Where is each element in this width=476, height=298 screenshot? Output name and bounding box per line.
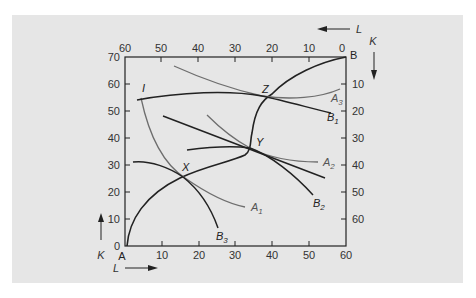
curve-b2-label: B2 [313,197,325,212]
curve-a1-label: A1 [250,201,263,216]
isoquant-b3 [133,162,218,228]
point-i-label: I [142,82,145,94]
svg-text:50: 50 [155,42,167,54]
curve-a3-label: A3 [330,92,343,107]
svg-text:40: 40 [108,132,120,144]
left-tick-labels: 0 10 20 30 40 50 60 70 [108,51,120,252]
l-right-arrow-icon [125,265,158,271]
isoquant-a1 [141,98,245,207]
top-tick-labels: 60 50 40 30 20 10 0 [119,42,345,54]
svg-text:30: 30 [108,159,120,171]
svg-text:40: 40 [352,159,364,171]
top-ticks [161,57,309,62]
origin-a-label: A [118,250,126,262]
l-axis-label-a: L [113,262,119,274]
l-axis-label-b: L [356,23,362,35]
svg-text:10: 10 [108,213,120,225]
svg-text:20: 20 [193,249,205,261]
curve-a2-label: A2 [322,156,335,171]
k-axis-label-a: K [97,249,105,261]
right-tick-labels: 10 20 30 40 50 60 [352,78,364,225]
svg-text:50: 50 [352,186,364,198]
svg-text:40: 40 [192,42,204,54]
svg-text:60: 60 [119,42,131,54]
svg-text:40: 40 [266,249,278,261]
edgeworth-box-diagram: 10 20 30 40 50 60 0 10 20 30 40 50 60 70… [0,0,476,298]
k-up-arrow-icon [98,213,104,240]
bottom-ticks [162,241,309,246]
point-x-label: X [181,161,190,173]
svg-text:10: 10 [156,249,168,261]
isoquant-b1 [137,93,331,113]
k-axis-label-b: K [369,35,377,47]
svg-text:20: 20 [352,105,364,117]
point-y-label: Y [256,136,264,148]
point-z-label: Z [261,83,270,95]
svg-text:20: 20 [108,186,120,198]
svg-text:30: 30 [352,132,364,144]
svg-text:60: 60 [340,249,352,261]
curve-b1-label: B1 [327,111,339,126]
svg-text:50: 50 [303,249,315,261]
origin-b-label: B [350,49,357,61]
curve-b3-label: B3 [216,230,228,245]
svg-text:0: 0 [339,42,345,54]
l-left-arrow-icon [317,26,350,32]
svg-text:60: 60 [352,213,364,225]
isoquant-b2 [187,147,313,195]
box-frame [125,57,346,246]
svg-text:50: 50 [108,105,120,117]
svg-text:20: 20 [266,42,278,54]
svg-text:10: 10 [303,42,315,54]
bottom-tick-labels: 10 20 30 40 50 60 [156,249,352,261]
k-down-arrow-icon [371,52,377,80]
left-ticks [125,84,130,219]
svg-text:30: 30 [229,42,241,54]
svg-text:30: 30 [229,249,241,261]
svg-text:10: 10 [352,78,364,90]
svg-text:60: 60 [108,78,120,90]
